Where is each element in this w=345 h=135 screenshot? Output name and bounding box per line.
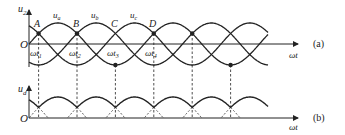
commutation-dot	[190, 31, 194, 35]
time-label-t1: ωt1	[30, 48, 42, 59]
point-label-d: D	[148, 18, 157, 29]
panel-b-x-label: ωt	[289, 122, 298, 132]
three-phase-rectifier-waveform-diagram: u2 O ωt (a) ua ub uc A B C D ωt1 ωt2 ωt3…	[0, 0, 345, 135]
time-label-t2: ωt2	[69, 48, 81, 59]
commutation-dot	[228, 63, 232, 67]
dashed-phase-continuation	[106, 108, 116, 118]
panel-a-origin: O	[20, 38, 28, 50]
rectified-output-envelope	[29, 97, 268, 118]
panel-a-y-label: u2	[18, 3, 27, 17]
point-label-a: A	[33, 18, 41, 29]
commutation-dot	[152, 31, 156, 35]
point-label-b: B	[73, 18, 79, 29]
dashed-phase-continuation	[29, 108, 38, 118]
curve-label-ua: ua	[53, 10, 61, 21]
panel-a: u2 O ωt (a) ua ub uc A B C D ωt1 ωt2 ωt3…	[18, 3, 324, 118]
output-voltage-envelope	[29, 97, 268, 108]
commutation-dot	[113, 63, 117, 67]
commutation-dot	[75, 31, 79, 35]
dashed-phase-continuation	[221, 108, 231, 118]
dashed-phase-continuation	[77, 108, 87, 118]
panel-a-x-label: ωt	[289, 50, 298, 60]
panel-b: ud O ωt (b)	[18, 83, 325, 132]
dashed-phase-continuation	[39, 108, 49, 118]
dashed-phase-continuation	[183, 108, 193, 118]
commutation-dot	[36, 31, 40, 35]
dashed-phase-continuation	[231, 108, 241, 118]
time-label-t4: ωt4	[145, 48, 157, 59]
panel-a-tag: (a)	[313, 38, 324, 50]
time-label-t3: ωt3	[107, 48, 119, 59]
panel-b-tag: (b)	[313, 112, 325, 124]
dashed-phase-continuation	[154, 108, 164, 118]
dashed-phase-continuation	[68, 108, 78, 118]
curve-label-ub: ub	[91, 10, 99, 21]
dashed-phase-continuation	[115, 108, 125, 118]
curve-label-uc: uc	[130, 10, 138, 21]
point-label-c: C	[111, 18, 118, 29]
panel-b-y-label: ud	[18, 83, 27, 97]
commutation-dashed-lines	[39, 34, 231, 119]
panel-b-origin: O	[20, 112, 28, 124]
dashed-phase-continuation	[144, 108, 154, 118]
dashed-phase-continuation	[192, 108, 202, 118]
